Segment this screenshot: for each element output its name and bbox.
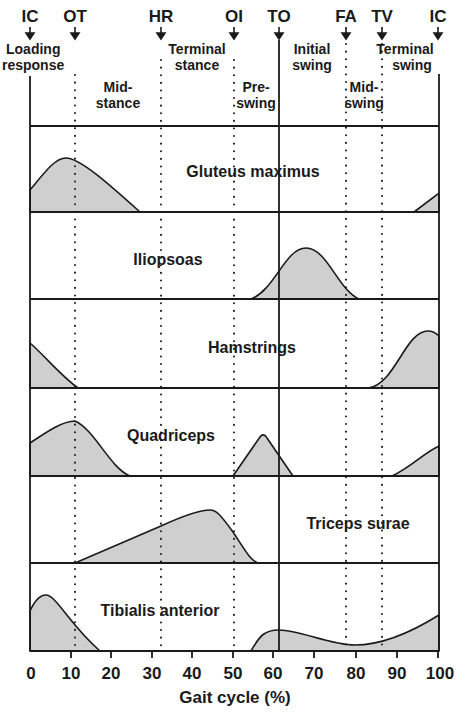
phase-terminal-swing-line1: Terminal xyxy=(376,41,433,57)
area-quadriceps-2 xyxy=(233,435,293,476)
area-iliopsoas xyxy=(251,248,359,299)
tick-80: 80 xyxy=(347,664,366,683)
arrow-down-icon xyxy=(157,27,165,39)
phase-preswing-line1: Pre- xyxy=(242,79,270,95)
label-quadriceps: Quadriceps xyxy=(127,427,215,444)
label-hamstrings: Hamstrings xyxy=(208,339,296,356)
phase-loading-line2: response xyxy=(2,57,64,73)
arrow-down-icon xyxy=(342,27,350,39)
phase-midstance-line1: Mid- xyxy=(104,79,133,95)
event-hr: HR xyxy=(149,7,174,26)
event-oi: OI xyxy=(225,7,243,26)
area-gluteus-maximus-1 xyxy=(30,158,140,212)
tick-30: 30 xyxy=(143,664,162,683)
tick-50: 50 xyxy=(224,664,243,683)
x-axis-tick-labels: 0 10 20 30 40 50 60 70 80 90 100 xyxy=(26,664,454,683)
tick-60: 60 xyxy=(264,664,283,683)
x-axis-label: Gait cycle (%) xyxy=(179,688,291,707)
arrow-down-icon xyxy=(230,27,238,39)
label-iliopsoas: Iliopsoas xyxy=(133,251,202,268)
label-tibialis-anterior: Tibialis anterior xyxy=(101,602,220,619)
tick-20: 20 xyxy=(102,664,121,683)
phase-terminal-stance-line2: stance xyxy=(175,57,220,73)
tick-90: 90 xyxy=(388,664,407,683)
arrow-down-icon xyxy=(275,27,283,39)
event-ic-start: IC xyxy=(22,7,39,26)
area-hamstrings-1 xyxy=(30,343,78,388)
event-ot: OT xyxy=(63,7,87,26)
phase-loading-line1: Loading xyxy=(6,41,60,57)
area-triceps-surae xyxy=(75,510,258,563)
phase-initial-swing-line2: swing xyxy=(292,57,332,73)
phase-labels: Loading response Mid- stance Terminal st… xyxy=(2,41,434,111)
tick-10: 10 xyxy=(62,664,81,683)
event-ic-end: IC xyxy=(430,7,447,26)
phase-terminal-stance-line1: Terminal xyxy=(168,41,225,57)
event-labels: IC OT HR OI TO FA TV IC xyxy=(22,7,447,26)
event-tv: TV xyxy=(371,7,393,26)
label-gluteus-maximus: Gluteus maximus xyxy=(186,163,319,180)
arrow-down-icon xyxy=(71,27,79,39)
phase-initial-swing-line1: Initial xyxy=(294,41,331,57)
area-gluteus-maximus-2 xyxy=(414,193,439,212)
gait-chart: IC OT HR OI TO FA TV IC Loading response… xyxy=(0,0,470,725)
area-quadriceps-1 xyxy=(30,421,130,476)
x-axis-ticks xyxy=(71,651,438,658)
tick-40: 40 xyxy=(183,664,202,683)
phase-terminal-swing-line2: swing xyxy=(392,57,432,73)
event-fa: FA xyxy=(335,7,357,26)
arrow-down-icon xyxy=(26,27,34,39)
phase-midstance-line2: stance xyxy=(96,95,141,111)
area-tibialis-anterior-1 xyxy=(30,595,100,651)
arrow-down-icon xyxy=(378,27,386,39)
phase-midswing-line2: swing xyxy=(344,95,384,111)
tick-0: 0 xyxy=(26,664,35,683)
area-hamstrings-2 xyxy=(368,331,439,388)
area-quadriceps-3 xyxy=(392,446,439,476)
event-to: TO xyxy=(267,7,290,26)
label-triceps-surae: Triceps surae xyxy=(306,515,409,532)
arrow-down-icon xyxy=(434,27,442,39)
event-arrows xyxy=(26,27,442,39)
phase-preswing-line2: swing xyxy=(236,95,276,111)
tick-100: 100 xyxy=(426,664,454,683)
phase-midswing-line1: Mid- xyxy=(350,79,379,95)
tick-70: 70 xyxy=(305,664,324,683)
